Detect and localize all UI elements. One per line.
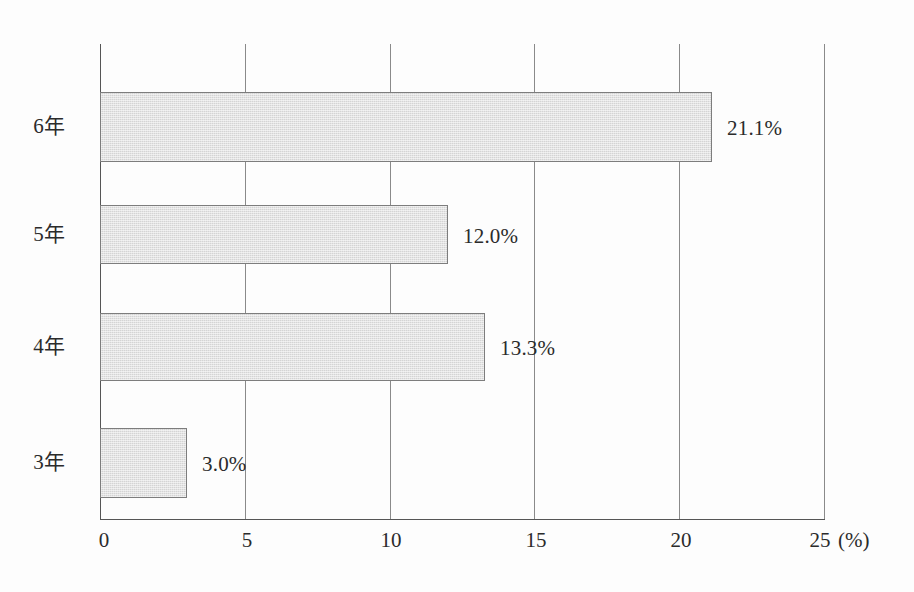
bar-chart: 21.1% 12.0% 13.3% 3.0% 6年 5年 4年 3年 0 5 1… [0, 0, 914, 592]
category-label-5nen: 5年 [6, 224, 92, 245]
bar-value-label-5nen: 12.0% [463, 226, 518, 247]
bar-4nen [100, 313, 485, 381]
x-axis-unit-label: (%) [838, 530, 869, 551]
bar-6nen [100, 92, 712, 162]
x-tick-label-20: 20 [671, 530, 692, 551]
category-label-3nen: 3年 [6, 452, 92, 473]
category-label-4nen: 4年 [6, 336, 92, 357]
bar-value-label-4nen: 13.3% [500, 338, 555, 359]
x-tick-label-10: 10 [381, 530, 402, 551]
bar-3nen [100, 428, 187, 498]
bar-5nen [100, 205, 448, 264]
x-tick-label-0: 0 [99, 530, 110, 551]
x-tick-label-5: 5 [242, 530, 253, 551]
gridline-25 [824, 44, 825, 520]
x-tick-label-25: 25 [810, 530, 831, 551]
x-axis-line [100, 519, 825, 520]
category-label-6nen: 6年 [6, 116, 92, 137]
bar-value-label-6nen: 21.1% [727, 118, 782, 139]
bar-value-label-3nen: 3.0% [202, 454, 247, 475]
x-tick-label-15: 15 [526, 530, 547, 551]
